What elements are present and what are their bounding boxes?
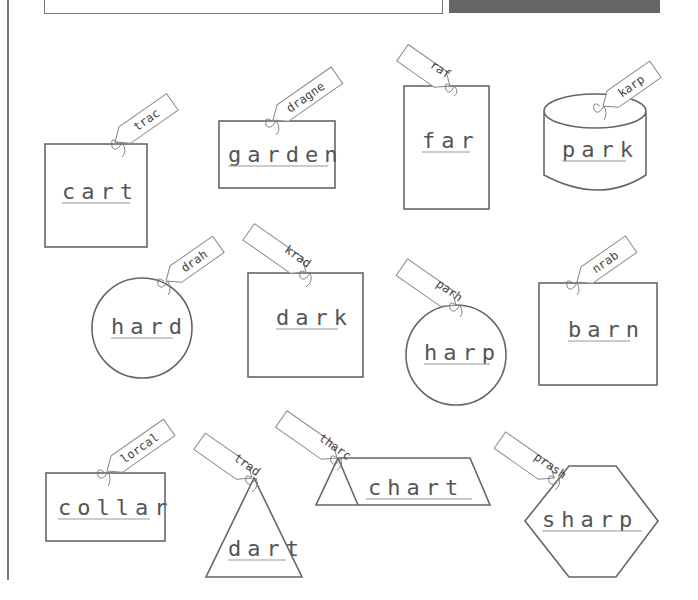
item-barn: nrab barn bbox=[539, 236, 657, 385]
item-hard: drah hard bbox=[92, 236, 224, 378]
item-sharp: prash sharp bbox=[494, 428, 658, 577]
item-garden: dragne garden bbox=[219, 67, 343, 188]
word-label: garden bbox=[228, 142, 343, 167]
item-park: karp park bbox=[544, 61, 661, 190]
word-label: collar bbox=[58, 495, 173, 520]
item-dark: krad dark bbox=[243, 220, 363, 377]
tag-trac: trac bbox=[109, 94, 178, 151]
tag-nrab: nrab bbox=[571, 236, 637, 290]
item-far: raf far bbox=[397, 40, 489, 209]
word-label: sharp bbox=[542, 507, 638, 532]
word-label: chart bbox=[368, 475, 464, 500]
word-label: harp bbox=[424, 340, 501, 365]
tag-lorcal: lorcal bbox=[101, 419, 175, 479]
word-label: dark bbox=[276, 305, 353, 330]
item-collar: lorcal collar bbox=[46, 419, 175, 541]
word-label: barn bbox=[568, 317, 645, 342]
item-chart: tharc chart bbox=[276, 407, 490, 505]
word-label: hard bbox=[111, 314, 188, 339]
item-harp: parh harp bbox=[396, 255, 506, 405]
tag-drah: drah bbox=[160, 236, 224, 289]
tag-dragne: dragne bbox=[267, 67, 342, 128]
item-cart: trac cart bbox=[45, 94, 178, 247]
word-label: cart bbox=[62, 179, 139, 204]
worksheet-page: trac cart dragne garden raf far bbox=[0, 0, 698, 600]
tag-parh: parh bbox=[396, 255, 465, 314]
shapes-canvas: trac cart dragne garden raf far bbox=[0, 0, 698, 600]
word-label: far bbox=[422, 128, 480, 153]
triangle-shape bbox=[206, 478, 302, 577]
word-label: dart bbox=[228, 536, 305, 561]
item-dart: trad dart bbox=[194, 429, 305, 577]
word-label: park bbox=[562, 137, 639, 162]
